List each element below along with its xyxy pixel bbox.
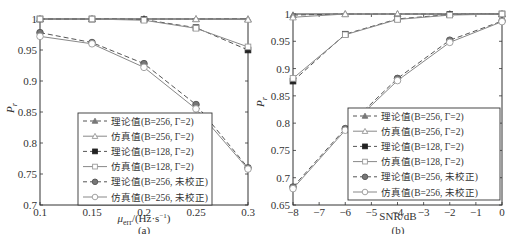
circle-marker <box>92 179 98 185</box>
square-marker <box>290 76 296 82</box>
y-tick-label: 0.8 <box>23 137 37 149</box>
square-marker <box>245 44 251 50</box>
circle-marker <box>362 189 368 195</box>
x-tick-label: −3 <box>418 206 430 218</box>
circle-marker <box>37 33 44 40</box>
legend-entry-label: 仿真值(B=128, Γ=2) <box>111 161 194 173</box>
square-marker <box>499 11 505 17</box>
x-tick-label: −7 <box>313 206 325 218</box>
x-axis-label-b: SNR/dB <box>379 210 416 222</box>
legend-entry-label: 理论值(B=256, 未校正) <box>111 176 208 188</box>
y-tick-label: 0.95 <box>271 35 291 47</box>
x-tick-label: −6 <box>339 206 351 218</box>
circle-marker <box>92 194 98 200</box>
legend-entry-label: 理论值(B=256, Γ=2) <box>111 116 194 128</box>
legend-entry-label: 仿真值(B=256, Γ=2) <box>111 131 194 143</box>
circle-marker <box>394 77 401 84</box>
y-tick-label: 0.75 <box>18 168 38 180</box>
square-marker <box>395 17 401 23</box>
circle-marker <box>499 18 506 25</box>
circle-marker <box>362 174 368 180</box>
square-marker <box>141 17 147 23</box>
y-axis-label-a: Pr <box>4 102 19 114</box>
y-axis-label-b: Pr <box>254 96 269 108</box>
x-tick-label: −1 <box>470 206 482 218</box>
x-tick-label: 0.3 <box>241 206 255 218</box>
square-marker <box>93 164 98 169</box>
square-marker <box>447 12 453 18</box>
x-tick-label: 0.15 <box>82 206 102 218</box>
square-marker <box>93 149 98 154</box>
square-marker <box>37 16 43 22</box>
legend-entry-label: 理论值(B=128, Γ=2) <box>381 141 464 153</box>
square-marker <box>89 16 95 22</box>
square-marker <box>363 144 368 149</box>
y-tick-label: 0.85 <box>18 106 38 118</box>
figure: 0.10.150.20.250.30.70.750.80.850.90.951理… <box>0 0 513 234</box>
legend-entry-label: 仿真值(B=256, 未校正) <box>111 192 208 204</box>
circle-marker <box>193 106 200 113</box>
legend-entry-label: 理论值(B=128, Γ=2) <box>111 146 194 158</box>
legend-entry-label: 仿真值(B=256, Γ=2) <box>381 126 464 138</box>
circle-marker <box>89 41 96 48</box>
circle-marker <box>290 185 297 192</box>
circle-marker <box>141 64 148 71</box>
square-marker <box>193 25 199 31</box>
y-tick-label: 0.95 <box>18 44 38 56</box>
chart-panel-b: −8−7−6−5−4−3−2−100.650.70.750.80.850.90.… <box>271 8 506 218</box>
circle-marker <box>446 39 453 46</box>
chart-panel-a: 0.10.150.20.250.30.70.750.80.850.90.951理… <box>18 13 256 218</box>
y-tick-label: 1 <box>285 8 291 20</box>
legend-entry-label: 仿真值(B=128, Γ=2) <box>381 156 464 168</box>
y-tick-label: 0.8 <box>276 117 290 129</box>
y-tick-label: 0.9 <box>23 75 37 87</box>
legend: 理论值(B=256, Γ=2)仿真值(B=256, Γ=2)理论值(B=128,… <box>348 108 500 200</box>
y-tick-label: 0.75 <box>271 144 291 156</box>
y-tick-label: 1 <box>32 13 38 25</box>
legend-entry-label: 理论值(B=256, Γ=2) <box>381 111 464 123</box>
square-marker <box>363 159 368 164</box>
x-tick-label: 0.25 <box>186 206 206 218</box>
legend-entry-label: 理论值(B=256, 未校正) <box>381 171 478 183</box>
series-3 <box>37 16 251 50</box>
x-tick-label: −2 <box>444 206 456 218</box>
y-tick-label: 0.85 <box>271 90 291 102</box>
circle-marker <box>245 166 252 173</box>
x-tick-label: −5 <box>366 206 378 218</box>
y-tick-label: 0.9 <box>276 63 290 75</box>
y-tick-label: 0.7 <box>276 172 290 184</box>
series-3 <box>290 11 505 81</box>
caption-b: (b) <box>392 224 405 234</box>
square-marker <box>342 32 348 38</box>
x-tick-label: 0 <box>499 206 505 218</box>
caption-a: (a) <box>138 224 151 234</box>
legend: 理论值(B=256, Γ=2)仿真值(B=256, Γ=2)理论值(B=128,… <box>78 113 212 205</box>
y-tick-label: 0.65 <box>271 199 291 211</box>
y-tick-label: 0.7 <box>23 199 37 211</box>
legend-entry-label: 仿真值(B=256, 未校正) <box>381 187 478 199</box>
